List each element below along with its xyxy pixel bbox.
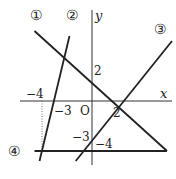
tick-label-x-neg4: −4 [26,87,44,101]
x-axis-label: x [160,86,168,101]
tick-label-x-neg3: −3 [54,104,72,118]
line-2 [40,36,70,161]
tick-label-x-2: 2 [113,106,121,120]
tick-label-y-neg3: −3 [72,130,90,144]
coordinate-diagram: x y O −4 −3 2 2 −3 −4 ① ② ③ ④ [0,0,176,179]
line-1-label: ① [30,7,43,23]
origin-label: O [80,104,90,118]
line-1 [35,31,168,151]
tick-label-y-2: 2 [94,64,102,78]
line-2-label: ② [66,7,79,23]
line-3-label: ③ [154,21,167,37]
line-4-label: ④ [8,143,21,159]
tick-label-y-neg4: −4 [95,137,113,151]
y-axis-label: y [94,8,103,23]
